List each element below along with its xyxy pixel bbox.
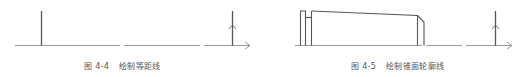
figure-title: 绘制等距线 (119, 62, 161, 71)
figure-4-5: 图 4-5绘制锥面轮廓线 (262, 0, 525, 77)
tapered-shaft-profile (301, 11, 425, 46)
figure-number: 图 4-5 (351, 62, 376, 71)
figure-title: 绘制锥面轮廓线 (386, 62, 444, 71)
figure-caption: 图 4-4绘制等距线 (84, 60, 161, 71)
figure-4-4: 图 4-4绘制等距线 (0, 0, 262, 77)
vertical-line-right (492, 11, 499, 46)
figure-caption: 图 4-5绘制锥面轮廓线 (351, 60, 444, 71)
centerline-axis (295, 42, 512, 49)
centerline-axis (15, 42, 250, 49)
vertical-line-right (229, 11, 236, 46)
figure-number: 图 4-4 (84, 62, 109, 71)
